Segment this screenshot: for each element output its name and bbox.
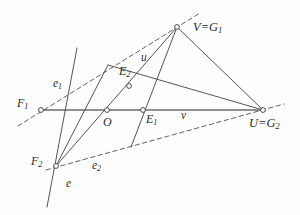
- point-marker: [261, 108, 266, 113]
- geometry-figure: V=G1 U=G2 F1 F2 O E1 E2 e e1 e2 u v: [0, 0, 300, 215]
- label-line-u: u: [141, 52, 147, 64]
- label-v-g1: V=G1: [193, 21, 222, 35]
- line-V-F2: [56, 27, 177, 166]
- point-marker: [54, 164, 59, 169]
- label-e2-point: E2: [119, 65, 130, 79]
- label-subscript: 1: [24, 102, 28, 111]
- label-subscript: 1: [58, 82, 62, 91]
- point-marker: [175, 25, 180, 30]
- point-marker: [39, 108, 44, 113]
- label-subscript: 1: [153, 118, 157, 127]
- label-f2: F2: [31, 155, 42, 169]
- label-subscript: 2: [126, 70, 130, 79]
- line-V-down: [131, 27, 177, 147]
- label-f1: F1: [17, 97, 28, 111]
- label-line-e: e: [66, 178, 71, 190]
- point-marker: [141, 108, 146, 113]
- label-line-e2: e2: [92, 160, 101, 173]
- label-u-g2: U=G2: [249, 117, 280, 131]
- label-o: O: [103, 116, 112, 128]
- diagram-canvas: [0, 0, 300, 215]
- line-e-steep: [47, 48, 77, 207]
- label-e1-point: E1: [146, 113, 157, 127]
- label-line-e1: e1: [53, 78, 62, 91]
- point-marker: [127, 84, 132, 89]
- label-subscript: 2: [276, 121, 280, 131]
- label-subscript: 1: [218, 25, 222, 35]
- point-marker: [105, 108, 110, 113]
- label-subscript: 2: [38, 160, 42, 169]
- label-subscript: 2: [97, 164, 101, 173]
- label-line-v: v: [181, 110, 186, 122]
